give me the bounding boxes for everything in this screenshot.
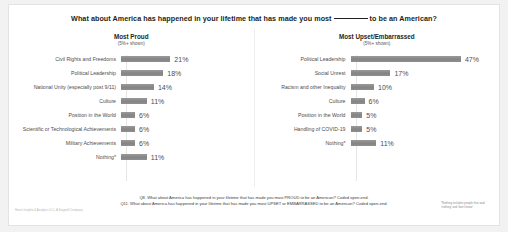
bar-category-label: Racism and other Inequality (255, 84, 351, 90)
bar-category-label: Political Leadership (9, 70, 121, 76)
bar (351, 56, 461, 63)
bar-row: Position in the World6% (9, 108, 254, 122)
bar-category-label: Culture (255, 98, 351, 104)
bar-category-label: Handling of COVID-19 (255, 126, 351, 132)
bar-track: 14% (121, 84, 254, 91)
bar-track: 6% (121, 112, 254, 119)
bar (351, 84, 375, 91)
bar-track: 5% (351, 126, 500, 133)
bar-track: 10% (351, 84, 500, 91)
panel-most-upset: Most Upset/Embarrassed (5%+ shown) Polit… (255, 29, 500, 187)
bar-category-label: Scientific or Technological Achievements (9, 126, 121, 132)
bar-row: Civil Rights and Freedoms21% (9, 52, 254, 66)
bar-track: 11% (121, 154, 254, 161)
bar-track: 6% (121, 126, 254, 133)
panel-title-left: Most Proud (9, 33, 254, 40)
bar-track: 11% (121, 98, 254, 105)
bar-row: Position in the World5% (255, 108, 500, 122)
panel-subtitle-right: (5%+ shown) (255, 41, 500, 46)
bar-category-label: Political Leadership (255, 56, 351, 62)
page-title: What about America has happened in your … (9, 14, 499, 23)
bar-row: Political Leadership47% (255, 52, 500, 66)
bar-row: Social Unrest17% (255, 66, 500, 80)
bar-row: Nothing*11% (255, 136, 500, 150)
bar-row: Political Leadership18% (9, 66, 254, 80)
bar (121, 56, 170, 63)
bar (121, 98, 147, 105)
bar-track: 11% (351, 140, 500, 147)
bar-category-label: Nothing* (255, 140, 351, 146)
bar (351, 112, 363, 119)
bar-row: Culture11% (9, 94, 254, 108)
bar-row: National Unity (especially post 9/11)14% (9, 80, 254, 94)
bar-row: Culture6% (255, 94, 500, 108)
bar-track: 5% (351, 112, 500, 119)
bar-row: Military Achievements6% (9, 136, 254, 150)
bar-value-label: 5% (366, 112, 376, 119)
panel-title-right: Most Upset/Embarrassed (255, 33, 500, 40)
bar-category-label: Civil Rights and Freedoms (9, 56, 121, 62)
bar (351, 140, 377, 147)
bar-track: 18% (121, 70, 254, 77)
bar-row: Racism and other Inequality10% (255, 80, 500, 94)
bar-value-label: 17% (394, 70, 408, 77)
bar-category-label: Position in the World (9, 112, 121, 118)
bar-value-label: 11% (151, 98, 165, 105)
bar-value-label: 11% (151, 154, 165, 161)
footnotes: Q8. What about America has happened in y… (9, 195, 499, 208)
bar (121, 112, 135, 119)
bar (351, 126, 363, 133)
bar-rows-left: Civil Rights and Freedoms21%Political Le… (9, 52, 254, 164)
bar-value-label: 18% (167, 70, 181, 77)
panel-most-proud: Most Proud (5%+ shown) Civil Rights and … (9, 29, 255, 187)
panel-subtitle-left: (5%+ shown) (9, 41, 254, 46)
bar-track: 47% (351, 56, 500, 63)
bar-value-label: 6% (139, 126, 149, 133)
bar-category-label: National Unity (especially post 9/11) (9, 84, 121, 90)
bar-row: Nothing*11% (9, 150, 254, 164)
bar-row: Handling of COVID-195% (255, 122, 500, 136)
bar (121, 84, 154, 91)
source-credit: Harris Insights & Analytics LLC, A Stagw… (15, 208, 83, 212)
page-title-before: What about America has happened in your … (71, 14, 331, 23)
bar-value-label: 21% (174, 56, 188, 63)
footnote-q11: Q11. What about America has happened in … (9, 201, 499, 207)
bar-value-label: 6% (369, 98, 379, 105)
bar-value-label: 6% (139, 140, 149, 147)
bar-value-label: 6% (139, 112, 149, 119)
asterisk-footnote: *Nothing includes people that said 'noth… (441, 201, 493, 210)
chart-panels: Most Proud (5%+ shown) Civil Rights and … (9, 29, 499, 187)
bar-category-label: Military Achievements (9, 140, 121, 146)
bar (351, 70, 391, 77)
bar-category-label: Social Unrest (255, 70, 351, 76)
bar (351, 98, 365, 105)
bar-value-label: 10% (378, 84, 392, 91)
panel-heading-left: Most Proud (5%+ shown) (9, 33, 254, 46)
bar-rows-right: Political Leadership47%Social Unrest17%R… (255, 52, 500, 150)
bar (121, 126, 135, 133)
bar-category-label: Position in the World (255, 112, 351, 118)
bar-category-label: Culture (9, 98, 121, 104)
title-blank (334, 18, 368, 19)
bar-category-label: Nothing* (9, 154, 121, 160)
bar-track: 6% (121, 140, 254, 147)
panel-heading-right: Most Upset/Embarrassed (5%+ shown) (255, 33, 500, 46)
bar-value-label: 47% (465, 56, 479, 63)
bar-track: 17% (351, 70, 500, 77)
bar-value-label: 5% (366, 126, 376, 133)
bar (121, 154, 147, 161)
slide-canvas: What about America has happened in your … (8, 4, 500, 226)
bar-row: Scientific or Technological Achievements… (9, 122, 254, 136)
bar-value-label: 11% (380, 140, 394, 147)
bar-track: 6% (351, 98, 500, 105)
bar (121, 140, 135, 147)
bar (121, 70, 163, 77)
page-title-after: to be an American? (370, 14, 437, 23)
bar-value-label: 14% (158, 84, 172, 91)
bar-track: 21% (121, 56, 254, 63)
